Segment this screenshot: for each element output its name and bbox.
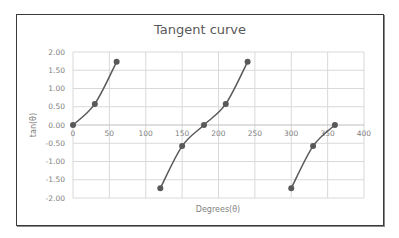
y-tick-label: 0.50 xyxy=(48,102,65,111)
data-point-marker xyxy=(223,101,229,107)
data-point-marker xyxy=(332,122,338,128)
x-tick-label: 400 xyxy=(357,129,372,138)
y-tick-label: -1.50 xyxy=(46,175,66,184)
y-tick-label: 1.50 xyxy=(48,66,65,75)
data-point-marker xyxy=(157,185,163,191)
y-tick-label: 0.00 xyxy=(48,121,65,130)
data-point-marker xyxy=(288,185,294,191)
x-axis-ticks: 050100150200250300350400 xyxy=(71,129,372,138)
x-tick-label: 100 xyxy=(139,129,154,138)
x-tick-label: 200 xyxy=(211,129,226,138)
data-point-marker xyxy=(310,143,316,149)
x-tick-label: 300 xyxy=(284,129,299,138)
y-tick-label: 2.00 xyxy=(48,48,65,57)
data-point-marker xyxy=(92,101,98,107)
gridlines xyxy=(73,52,364,198)
data-point-marker xyxy=(245,59,251,65)
y-tick-label: -2.00 xyxy=(46,194,66,203)
x-tick-label: 150 xyxy=(175,129,190,138)
x-tick-label: 250 xyxy=(248,129,263,138)
y-tick-label: 1.00 xyxy=(48,84,65,93)
tangent-chart: Tangent curve 2.001.501.000.500.00-0.50-… xyxy=(0,0,399,238)
chart-title: Tangent curve xyxy=(153,22,246,37)
data-point-marker xyxy=(179,143,185,149)
y-tick-label: -1.00 xyxy=(46,157,66,166)
data-point-marker xyxy=(114,59,120,65)
x-tick-label: 50 xyxy=(105,129,115,138)
x-axis-label: Degrees(θ) xyxy=(196,205,240,214)
y-axis-ticks: 2.001.501.000.500.00-0.50-1.00-1.50-2.00 xyxy=(46,48,66,203)
data-point-marker xyxy=(201,122,207,128)
y-axis-label: tan(θ) xyxy=(29,113,38,137)
x-tick-label: 0 xyxy=(71,129,76,138)
y-tick-label: -0.50 xyxy=(46,139,66,148)
data-point-marker xyxy=(70,122,76,128)
series-line-branch-1 xyxy=(73,62,117,125)
